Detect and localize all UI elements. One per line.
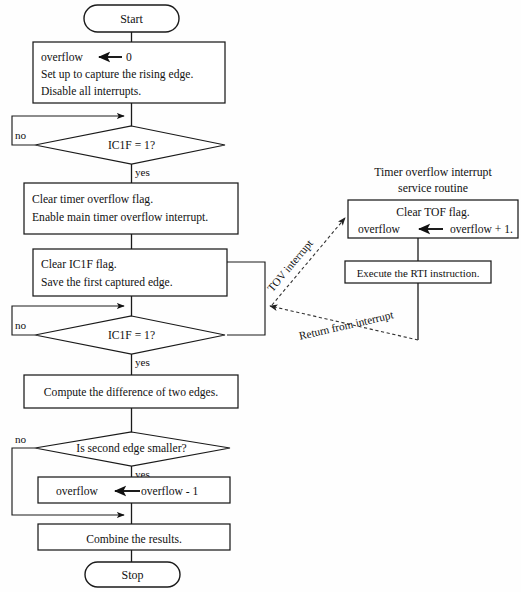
clear-tof-box: Clear TOF flag. overflow overflow + 1. — [348, 200, 518, 238]
flowchart-diagram: Start overflow 0 Set up to capture the r… — [0, 0, 521, 592]
execute-rti-label: Execute the RTI instruction. — [357, 267, 480, 279]
decision3-no-label: no — [15, 433, 27, 445]
tov-interrupt-label: TOV interrupt — [265, 236, 316, 293]
combine-results-label: Combine the results. — [86, 533, 182, 546]
init-overflow-var: overflow — [41, 51, 83, 64]
tof-overflow-var: overflow — [358, 223, 400, 236]
tov-interrupt-edge: TOV interrupt — [265, 218, 345, 305]
decision1-ic1f: IC1F = 1? no yes — [15, 126, 225, 178]
decrement-var: overflow — [56, 485, 98, 498]
return-from-interrupt-edge: Return from interrupt — [270, 306, 418, 342]
decision3-second-edge-smaller: Is second edge smaller? no yes — [15, 432, 230, 480]
isr-title-line2: service routine — [398, 181, 468, 195]
init-line2: Set up to capture the rising edge. — [41, 68, 193, 81]
compute-difference-label: Compute the difference of two edges. — [44, 386, 218, 399]
decision2-label: IC1F = 1? — [108, 329, 155, 342]
isr-title: Timer overflow interrupt service routine — [374, 165, 492, 195]
decision3-label: Is second edge smaller? — [76, 442, 186, 455]
return-from-interrupt-label: Return from interrupt — [298, 308, 395, 342]
decision2-ic1f: IC1F = 1? no yes — [15, 316, 225, 368]
combine-results-box: Combine the results. — [38, 524, 230, 550]
clear-ic1f-line1: Clear IC1F flag. — [41, 258, 117, 271]
decision1-yes-label: yes — [135, 166, 150, 178]
init-process-box: overflow 0 Set up to capture the rising … — [33, 42, 225, 103]
clear-timer-overflow-box: Clear timer overflow flag. Enable main t… — [24, 183, 238, 234]
clear-timer-line1: Clear timer overflow flag. — [32, 193, 153, 206]
isr-title-line1: Timer overflow interrupt — [374, 165, 492, 179]
decision1-no-label: no — [15, 129, 27, 141]
isr-bracket-connector — [227, 262, 265, 335]
decision2-no-label: no — [15, 319, 27, 331]
decision1-label: IC1F = 1? — [108, 139, 155, 152]
init-line3: Disable all interrupts. — [41, 85, 141, 98]
decision2-yes-label: yes — [135, 356, 150, 368]
stop-terminal: Stop — [85, 562, 180, 587]
decrement-expression: overflow - 1 — [141, 485, 199, 498]
stop-terminal-label: Stop — [121, 568, 143, 582]
start-terminal-label: Start — [120, 12, 143, 26]
overflow-decrement-box: overflow overflow - 1 — [38, 477, 230, 503]
clear-ic1f-save-edge-box: Clear IC1F flag. Save the first captured… — [33, 249, 227, 296]
tof-overflow-expression: overflow + 1. — [450, 223, 513, 236]
clear-tof-line1: Clear TOF flag. — [396, 206, 469, 219]
clear-ic1f-line2: Save the first captured edge. — [41, 276, 173, 289]
compute-difference-box: Compute the difference of two edges. — [24, 375, 238, 408]
flowchart-canvas: Start overflow 0 Set up to capture the r… — [0, 0, 521, 592]
start-terminal: Start — [84, 5, 179, 32]
execute-rti-box: Execute the RTI instruction. — [345, 261, 491, 283]
clear-timer-line2: Enable main timer overflow interrupt. — [32, 211, 208, 224]
init-overflow-value: 0 — [126, 51, 132, 64]
